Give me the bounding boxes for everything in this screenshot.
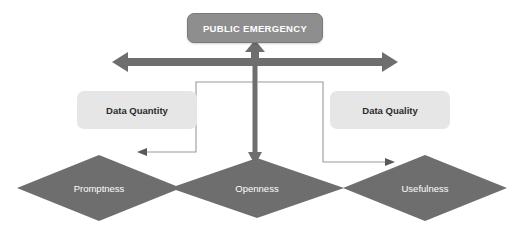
down-arrow-to-openness — [248, 64, 262, 165]
data-quality-label: Data Quality — [362, 105, 417, 116]
diamond-promptness — [17, 155, 181, 221]
diamond-openness — [170, 158, 344, 218]
data-quality-box[interactable]: Data Quality — [330, 91, 450, 129]
diagram-canvas: PUBLIC EMERGENCY Data Quantity Data Qual… — [0, 0, 522, 234]
public-emergency-label: PUBLIC EMERGENCY — [203, 23, 307, 34]
diamond-usefulness — [343, 155, 507, 221]
public-emergency-box[interactable]: PUBLIC EMERGENCY — [187, 13, 323, 43]
data-quantity-label: Data Quantity — [106, 105, 168, 116]
data-quantity-box[interactable]: Data Quantity — [77, 91, 197, 129]
